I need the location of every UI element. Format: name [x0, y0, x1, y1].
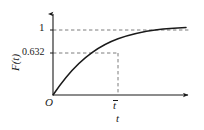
chart-plot-area: [0, 0, 204, 130]
x-axis-title: t: [116, 113, 119, 124]
origin-label: O: [45, 97, 53, 108]
cdf-chart-figure: 1 0.632 F(t) O t t: [0, 0, 204, 130]
overbar-mark: [113, 100, 118, 101]
y-tick-label-value: 0.632: [22, 47, 45, 57]
y-axis-title: F(t): [10, 40, 21, 86]
cdf-curve: [53, 28, 186, 95]
y-tick-label-one: 1: [39, 22, 45, 33]
x-tick-label-tbar: t: [113, 99, 118, 111]
